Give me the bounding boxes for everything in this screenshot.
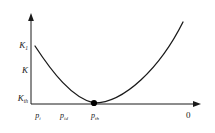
x-axis-label-origin: 0 <box>186 111 198 120</box>
x-axis-label-pth-subscript: th <box>95 116 99 121</box>
x-axis-label-pid-subscript: id <box>64 116 68 121</box>
y-axis-label-kth-base: K <box>18 93 24 103</box>
x-axis-label-pth: pth <box>82 112 108 120</box>
curve-k-of-p <box>35 22 183 103</box>
y-axis-label-k1: K1 <box>8 41 28 50</box>
minimum-point-marker <box>91 100 97 106</box>
y-axis-label-k1-subscript: 1 <box>25 45 28 51</box>
x-axis-label-pid: pid <box>52 112 76 120</box>
x-axis-label-pi: pi <box>28 112 48 120</box>
y-axis-arrowhead-icon <box>28 13 34 21</box>
y-axis-label-k-base: K <box>22 65 28 75</box>
x-axis-label-pi-subscript: i <box>39 116 40 121</box>
y-axis-label-kth-subscript: th <box>24 98 28 104</box>
x-axis-arrowhead-icon <box>193 101 201 107</box>
y-axis-label-kth: Kth <box>5 94 28 103</box>
y-axis-label-k: K <box>8 66 28 75</box>
figure-container: K1 K Kth pi pid pth 0 <box>0 0 215 133</box>
